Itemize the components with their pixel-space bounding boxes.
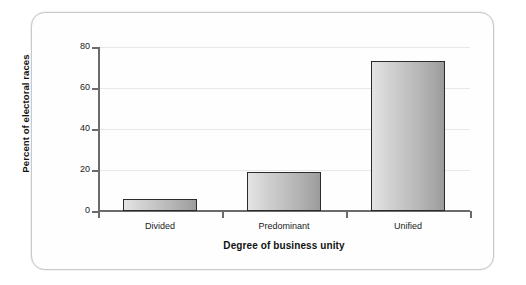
y-axis-tick-label-text: 20 [56, 164, 90, 174]
gridline [98, 47, 470, 48]
y-axis-tick-label: 80 [52, 41, 90, 52]
bar-predominant[interactable] [247, 172, 321, 211]
y-axis-title: Percent of electoral races [20, 49, 31, 179]
y-axis-tick [92, 88, 99, 90]
y-axis-tick [92, 129, 99, 131]
bar-unified[interactable] [371, 61, 445, 211]
y-axis-tick-label-text: 0 [56, 205, 90, 215]
x-axis-category-label: Unified [348, 221, 468, 231]
y-axis-tick-label: 0 [52, 205, 90, 216]
x-axis-title: Degree of business unity [98, 240, 470, 251]
bar-divided[interactable] [123, 199, 197, 211]
x-axis-tick [98, 211, 100, 218]
y-axis-tick-label: 20 [52, 164, 90, 175]
x-axis-category-label: Predominant [224, 221, 344, 231]
x-axis-category-label: Divided [100, 221, 220, 231]
y-axis-tick-label: 60 [52, 82, 90, 93]
y-axis-tick [92, 47, 99, 49]
y-axis-tick-label-text: 80 [56, 41, 90, 51]
bar-chart: 020406080 DividedPredominantUnified Perc… [0, 0, 526, 285]
x-axis-tick [470, 211, 472, 218]
y-axis-tick-label-text: 60 [56, 82, 90, 92]
x-axis-tick [346, 211, 348, 218]
x-axis-tick [222, 211, 224, 218]
y-axis-tick [92, 170, 99, 172]
y-axis-tick-label: 40 [52, 123, 90, 134]
y-axis-tick-label-text: 40 [56, 123, 90, 133]
